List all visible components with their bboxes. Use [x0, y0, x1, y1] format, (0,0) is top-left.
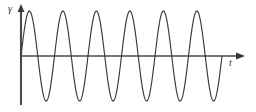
plot-canvas: [0, 0, 256, 112]
y-axis-label: γ: [8, 3, 12, 14]
waveform-figure: γ t: [0, 0, 256, 112]
x-axis-label: t: [229, 58, 232, 68]
